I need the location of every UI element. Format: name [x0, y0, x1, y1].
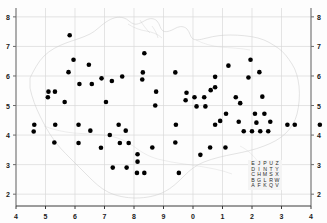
- data-point: [218, 119, 223, 124]
- data-point: [194, 104, 199, 109]
- x-axis-tick-label: 7: [103, 213, 107, 220]
- data-point: [76, 141, 81, 146]
- data-point: [53, 122, 58, 127]
- data-point: [88, 128, 93, 133]
- data-point: [266, 129, 271, 134]
- data-point: [142, 171, 147, 176]
- x-axis-tick-label: 5: [44, 213, 48, 220]
- data-point: [174, 122, 179, 127]
- data-point: [241, 129, 246, 134]
- data-point: [62, 100, 67, 105]
- data-point: [108, 133, 113, 138]
- grid-key-cell: V: [274, 183, 280, 189]
- data-point: [123, 128, 128, 133]
- data-point: [124, 165, 129, 170]
- data-point: [226, 63, 231, 68]
- grid-key-row: AFKQV: [250, 183, 280, 189]
- data-point: [90, 82, 95, 87]
- data-point: [260, 94, 265, 99]
- y-axis-tick-label-left: 5: [6, 102, 10, 109]
- data-point: [31, 129, 36, 134]
- y-axis-tick-label-left: 7: [6, 43, 10, 50]
- data-point: [110, 165, 115, 170]
- y-axis-tick-label-right: 6: [317, 72, 321, 79]
- x-axis-tick-label: 3: [280, 213, 284, 220]
- y-axis-tick-label-right: 4: [317, 132, 321, 139]
- data-point: [248, 57, 253, 62]
- data-point: [173, 70, 178, 75]
- data-point: [140, 77, 145, 82]
- data-point: [154, 89, 159, 94]
- y-axis-tick-label-right: 3: [317, 161, 321, 168]
- data-point: [66, 70, 71, 75]
- grid-key-table: EJPUZDINTYCHMSXBGLRWAFKQV: [250, 161, 280, 189]
- data-point: [233, 95, 238, 100]
- x-axis-tick-label: 2: [250, 213, 254, 220]
- data-point: [52, 140, 57, 145]
- data-point: [67, 33, 72, 38]
- data-point: [236, 119, 241, 124]
- data-point: [77, 82, 82, 87]
- data-point: [46, 95, 51, 100]
- data-point: [223, 145, 228, 150]
- data-point: [258, 129, 263, 134]
- data-point: [53, 89, 58, 94]
- data-point: [183, 98, 188, 103]
- data-point: [318, 122, 323, 127]
- y-axis-tick-label-left: 3: [6, 161, 10, 168]
- data-point: [71, 57, 76, 62]
- data-point: [116, 122, 121, 127]
- x-axis-tick-label: 9: [162, 213, 166, 220]
- y-axis-tick-label-right: 7: [317, 43, 321, 50]
- data-point: [246, 75, 251, 80]
- y-axis-tick-label-right: 5: [317, 102, 321, 109]
- x-axis-tick-label: 6: [73, 213, 77, 220]
- y-axis-tick-label-left: 4: [6, 132, 10, 139]
- data-point: [238, 101, 243, 106]
- data-point: [213, 75, 218, 80]
- y-axis-tick-label-left: 6: [6, 72, 10, 79]
- data-point: [224, 111, 229, 116]
- data-point: [203, 104, 208, 109]
- data-point: [285, 122, 290, 127]
- data-point: [292, 122, 297, 127]
- data-point: [202, 95, 207, 100]
- data-point: [177, 171, 182, 176]
- y-axis-tick-label-left: 8: [6, 13, 10, 20]
- data-point: [110, 79, 115, 84]
- data-point: [153, 103, 158, 108]
- distribution-map-figure: 45678901234 8765432 8765432 EJPUZDINTYCH…: [0, 0, 327, 223]
- data-point: [208, 88, 213, 93]
- data-point: [150, 145, 155, 150]
- y-axis-tick-label-right: 2: [317, 191, 321, 198]
- x-axis-tick-label: 4: [14, 213, 18, 220]
- data-point: [32, 122, 37, 127]
- data-point: [198, 153, 203, 158]
- x-axis-tick-label: 0: [191, 213, 195, 220]
- x-axis-tick-label: 4: [309, 213, 313, 220]
- data-point: [142, 51, 147, 56]
- data-point: [135, 159, 140, 164]
- data-point: [135, 171, 140, 176]
- y-axis-tick-label-left: 2: [6, 191, 10, 198]
- data-point: [253, 111, 258, 116]
- data-point: [208, 145, 213, 150]
- data-point: [268, 119, 273, 124]
- x-axis-tick-label: 8: [132, 213, 136, 220]
- data-point: [126, 141, 131, 146]
- data-point: [118, 141, 123, 146]
- data-point: [257, 70, 262, 75]
- data-point: [192, 95, 197, 100]
- data-point: [213, 122, 218, 127]
- data-point: [99, 76, 104, 81]
- data-point: [250, 129, 255, 134]
- data-point: [173, 140, 178, 145]
- data-point: [135, 152, 140, 157]
- data-point: [141, 70, 146, 75]
- data-point: [184, 91, 189, 96]
- data-point: [120, 74, 125, 79]
- data-point: [87, 62, 92, 67]
- national-grid-key: EJPUZDINTYCHMSXBGLRWAFKQV: [248, 160, 282, 190]
- data-point: [254, 120, 259, 125]
- x-axis-tick-label: 1: [221, 213, 225, 220]
